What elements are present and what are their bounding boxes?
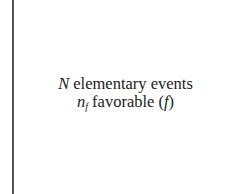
close-paren: ) [169,92,175,111]
elementary-events-text: elementary events [69,74,193,93]
N-symbol: N [58,74,69,93]
favorable-text: favorable ( [88,92,164,111]
favorable-events-label: nf favorable (f) [20,93,231,116]
n-symbol: n [77,92,85,111]
elementary-events-label: N elementary events [20,75,231,93]
boundary-line [12,0,14,194]
